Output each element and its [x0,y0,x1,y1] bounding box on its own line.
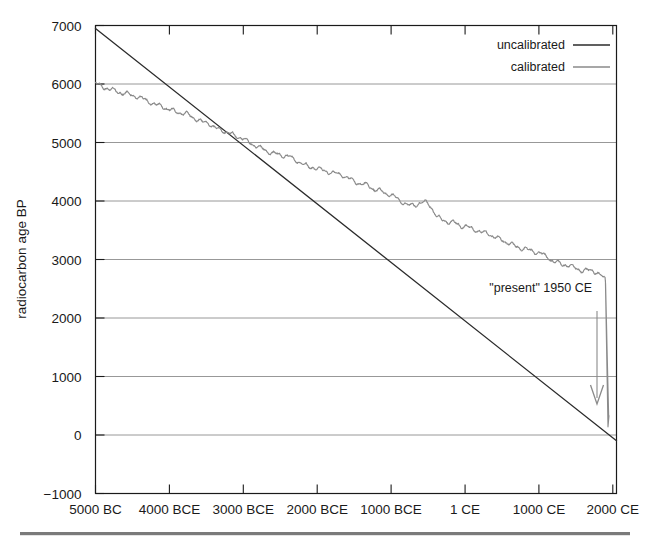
x-tick-label-4: 1000 BCE [360,502,422,517]
y-tick-label-7: 0 [74,428,82,443]
y-tick-label-2: 5000 [51,136,81,151]
y-tick-label-5: 2000 [51,311,81,326]
y-tick-label-0: 7000 [51,19,81,34]
x-tick-label-7: 2000 CE [587,502,640,517]
x-tick-label-3: 2000 BCE [286,502,348,517]
legend-label-calibrated: calibrated [511,60,565,74]
y-tick-label-4: 3000 [51,253,81,268]
legend-label-uncalibrated: uncalibrated [497,38,565,52]
y-tick-label-3: 4000 [51,194,81,209]
y-tick-label-1: 6000 [51,77,81,92]
x-tick-label-6: 1000 CE [513,502,566,517]
x-tick-label-0: 5000 BC [69,502,122,517]
bottom-rule [20,532,630,535]
x-tick-label-1: 4000 BCE [139,502,201,517]
chart-svg: 5000 BC4000 BCE3000 BCE2000 BCE1000 BCE1… [0,0,647,548]
figure-background [0,0,647,548]
x-tick-label-2: 3000 BCE [213,502,275,517]
y-tick-label-6: 1000 [51,370,81,385]
present-annotation-label: "present" 1950 CE [489,281,592,295]
y-tick-label-8: −1000 [44,487,82,502]
x-tick-label-5: 1 CE [450,502,480,517]
y-axis-title: radiocarbon age BP [14,199,29,318]
radiocarbon-calibration-figure: 5000 BC4000 BCE3000 BCE2000 BCE1000 BCE1… [0,0,647,548]
